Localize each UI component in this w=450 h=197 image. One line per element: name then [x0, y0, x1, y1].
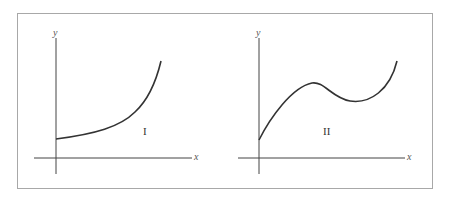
panel-i: [34, 38, 192, 174]
graphs-canvas: [0, 0, 450, 197]
panel-ii-x-label: x: [407, 152, 411, 162]
panel-i-y-label: y: [53, 28, 57, 38]
panel-i-x-label: x: [194, 152, 198, 162]
panel-ii: [238, 38, 405, 174]
panel-ii-y-label: y: [256, 28, 260, 38]
panel-ii-label: II: [323, 126, 330, 137]
panel-i-label: I: [143, 126, 147, 137]
